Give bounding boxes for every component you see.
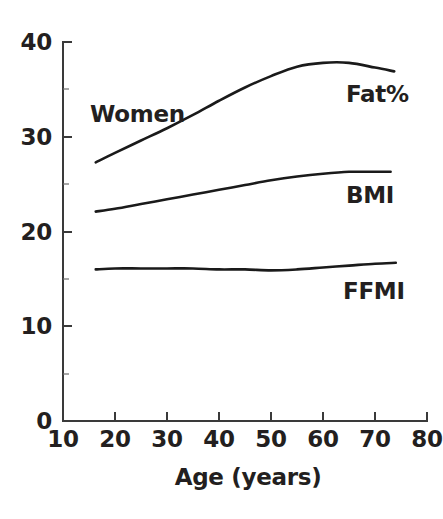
group-label-women: Women [90, 103, 185, 126]
y-axis-tick-label-10: 10 [6, 315, 52, 338]
x-axis-tick-label-70: 70 [345, 428, 405, 451]
x-axis-tick-label-40: 40 [189, 428, 249, 451]
y-axis-tick-label-40: 40 [6, 31, 52, 54]
x-axis-tick-label-50: 50 [241, 428, 301, 451]
series-label-ffmi: FFMI [343, 280, 405, 303]
series-label-fat: Fat% [346, 83, 409, 106]
series-line-ffmi [96, 263, 396, 271]
x-axis-tick-label-30: 30 [137, 428, 197, 451]
y-axis-tick-label-20: 20 [6, 221, 52, 244]
x-axis-tick-label-80: 80 [397, 428, 443, 451]
x-axis-tick-label-60: 60 [293, 428, 353, 451]
chart-figure: 40 30 20 10 0 10 20 30 40 50 60 70 80 Wo… [0, 0, 443, 519]
x-axis-title: Age (years) [148, 466, 348, 489]
x-axis-tick-label-10: 10 [33, 428, 93, 451]
x-axis-tick-label-20: 20 [85, 428, 145, 451]
y-axis-tick-label-30: 30 [6, 126, 52, 149]
series-label-bmi: BMI [346, 184, 394, 207]
